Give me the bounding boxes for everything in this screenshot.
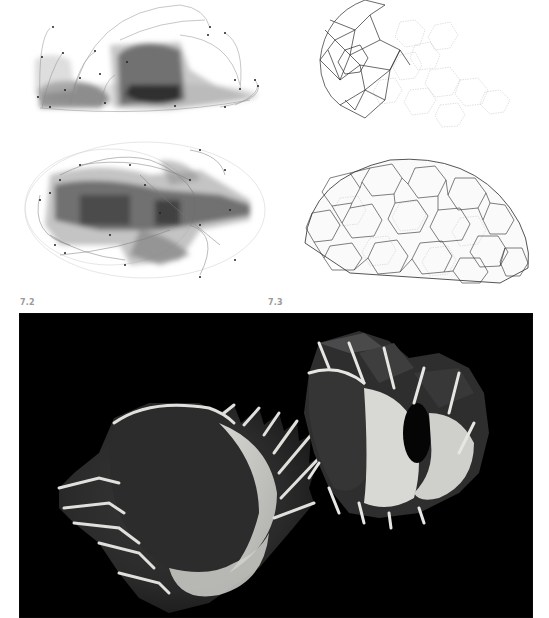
skull-top-render-image (20, 135, 270, 285)
figure-7-2-top-view (20, 135, 270, 285)
figure-7-3-partial-mesh (300, 0, 540, 130)
figure-label-7-3: 7.3 (268, 298, 283, 307)
figure-7-3-full-mesh (300, 148, 540, 288)
figure-label-7-2: 7.2 (20, 298, 35, 307)
full-mesh-dome-wireframe-image (300, 148, 540, 288)
sculpture-photograph (19, 313, 533, 618)
partial-mesh-wireframe-image (300, 0, 540, 130)
figure-7-2-side-view (30, 0, 270, 120)
cellular-shell-objects-image (19, 313, 533, 618)
skull-side-render-image (30, 0, 270, 120)
